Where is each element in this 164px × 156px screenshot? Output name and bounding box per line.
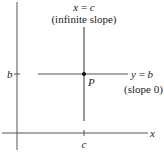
- point-p: [82, 72, 86, 76]
- x-axis-label: x: [149, 127, 155, 139]
- point-p-label: P: [87, 76, 95, 88]
- vertical-line-label: x = c: [72, 1, 95, 13]
- line-diagram: x = c (infinite slope) y = b (slope 0) P…: [0, 0, 164, 156]
- horizontal-line-label: y = b: [130, 68, 154, 80]
- vertical-line-note: (infinite slope): [51, 13, 116, 26]
- horizontal-line-note: (slope 0): [124, 83, 163, 96]
- y-tick-label-b: b: [7, 68, 13, 80]
- x-tick-label-c: c: [82, 138, 87, 150]
